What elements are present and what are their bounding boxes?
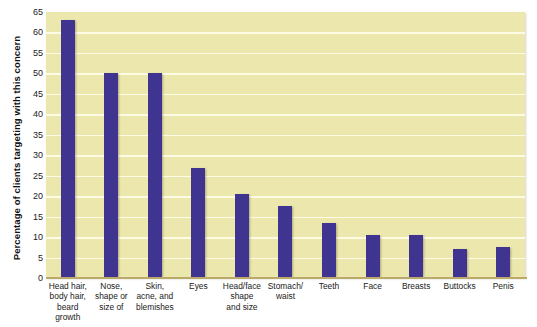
- y-tick-label: 60: [16, 28, 43, 37]
- bar-slot: [90, 12, 134, 278]
- x-axis-label: Penis: [475, 281, 531, 291]
- y-tick-label: 30: [16, 151, 43, 160]
- bar-slot: [351, 12, 395, 278]
- bar[interactable]: [235, 194, 249, 278]
- bar-slot: [264, 12, 308, 278]
- x-axis-label-line: Head hair,: [49, 281, 87, 291]
- y-tick-label: 5: [16, 253, 43, 262]
- bar[interactable]: [366, 235, 380, 278]
- x-axis-label-line: Skin,: [146, 281, 165, 291]
- y-tick-label: 65: [16, 8, 43, 17]
- y-tick-label: 45: [16, 89, 43, 98]
- x-axis-label-line: Eyes: [189, 281, 208, 291]
- bar[interactable]: [278, 206, 292, 278]
- bar-slot: [220, 12, 264, 278]
- bar-chart: Percentage of clients targeting with thi…: [0, 0, 537, 327]
- x-axis-label-line: size of: [99, 302, 123, 312]
- x-axis-label-line: shape: [231, 291, 254, 301]
- bar[interactable]: [61, 20, 75, 278]
- x-axis-label-line: and size: [226, 302, 257, 312]
- x-axis-label-line: beard: [57, 302, 78, 312]
- x-axis-label-line: Stomach/: [268, 281, 303, 291]
- y-tick-label: 15: [16, 212, 43, 221]
- x-axis-label-line: Face: [363, 281, 382, 291]
- bar[interactable]: [148, 73, 162, 278]
- x-axis-label-line: blemishes: [136, 302, 174, 312]
- y-tick-label: 10: [16, 233, 43, 242]
- bar-slot: [394, 12, 438, 278]
- y-tick-label: 25: [16, 171, 43, 180]
- x-axis-line: [46, 277, 527, 279]
- bar[interactable]: [496, 247, 510, 278]
- x-axis-label-line: body hair,: [50, 291, 86, 301]
- y-tick-label: 40: [16, 110, 43, 119]
- bar-slot: [133, 12, 177, 278]
- bars-layer: [46, 12, 525, 278]
- x-axis-label-line: Head/face: [223, 281, 261, 291]
- y-tick-label: 0: [16, 274, 43, 283]
- bar[interactable]: [191, 168, 205, 278]
- y-tick-label: 55: [16, 48, 43, 57]
- bar[interactable]: [453, 249, 467, 278]
- bar[interactable]: [409, 235, 423, 278]
- bar-slot: [481, 12, 525, 278]
- bar-slot: [307, 12, 351, 278]
- bar-slot: [46, 12, 90, 278]
- x-axis-label-line: Nose,: [100, 281, 122, 291]
- y-tick-label: 50: [16, 69, 43, 78]
- y-tick-label: 20: [16, 192, 43, 201]
- plot-area: [46, 12, 525, 278]
- x-axis-label-line: waist: [276, 291, 295, 301]
- x-axis-label-line: acne, and: [136, 291, 173, 301]
- x-axis-label-line: Penis: [493, 281, 514, 291]
- bar[interactable]: [104, 73, 118, 278]
- x-axis-label-line: Breasts: [402, 281, 430, 291]
- bar[interactable]: [322, 223, 336, 278]
- bar-slot: [177, 12, 221, 278]
- y-tick-label: 35: [16, 130, 43, 139]
- y-axis-tick-labels: 65605550454035302520151050: [16, 10, 43, 282]
- x-axis-label-line: shape or: [95, 291, 128, 301]
- x-axis-label-line: Teeth: [319, 281, 340, 291]
- bar-slot: [438, 12, 482, 278]
- x-axis-label-line: growth: [55, 312, 80, 322]
- x-axis-label-line: Buttocks: [444, 281, 476, 291]
- x-axis-category-labels: Head hair,body hair,beardgrowthNose,shap…: [46, 281, 525, 327]
